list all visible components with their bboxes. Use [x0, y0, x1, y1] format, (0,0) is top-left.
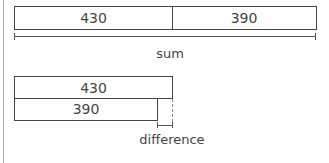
difference-bar-value: 430: [80, 80, 107, 96]
difference-bar-larger: 430: [14, 76, 173, 99]
sum-part-value: 430: [80, 10, 107, 26]
difference-bar-smaller: 390: [14, 98, 158, 121]
sum-part-bar: 430: [14, 6, 173, 30]
left-margin-rule: [3, 0, 4, 163]
sum-bracket-line: [14, 36, 316, 37]
difference-bracket-right-tick: [172, 122, 173, 128]
difference-bracket-line: [157, 125, 173, 126]
sum-label: sum: [140, 46, 200, 61]
sum-part-value: 390: [231, 10, 258, 26]
sum-bracket-right-tick: [315, 33, 316, 40]
difference-bar-value: 390: [73, 101, 100, 117]
difference-label: difference: [130, 132, 214, 147]
sum-part-bar: 390: [172, 6, 317, 30]
